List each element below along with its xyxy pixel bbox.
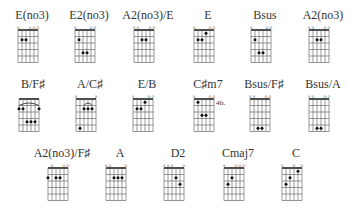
barre-arc	[19, 103, 39, 106]
open-string-marker: o	[239, 163, 242, 168]
muted-string-marker: x	[29, 25, 32, 30]
open-string-marker: o	[269, 94, 272, 99]
chord-name: Bsus/A	[293, 77, 353, 91]
finger-dot	[113, 176, 116, 179]
open-string-marker: o	[133, 25, 136, 30]
fretboard-grid: xxoo	[248, 93, 288, 136]
muted-string-marker: x	[281, 163, 284, 168]
fretboard-grid: xooo	[307, 24, 347, 67]
chord-name: D2	[148, 146, 208, 160]
finger-dot	[121, 176, 124, 179]
finger-dot	[22, 107, 25, 110]
open-string-marker: o	[90, 25, 93, 30]
open-string-marker: o	[213, 25, 216, 30]
chord-name: Bsus/F♯	[234, 77, 294, 91]
open-string-marker: o	[324, 94, 327, 99]
finger-dot	[47, 176, 50, 179]
finger-dot	[79, 127, 82, 130]
fretboard-grid: ooo	[192, 24, 232, 67]
finger-dot	[257, 127, 260, 130]
open-string-marker: o	[17, 25, 20, 30]
finger-dot	[320, 38, 323, 41]
open-string-marker: o	[312, 94, 315, 99]
finger-dot	[145, 38, 148, 41]
open-string-marker: o	[270, 25, 273, 30]
open-string-marker: o	[37, 25, 40, 30]
chord-name: Bsus	[235, 8, 295, 22]
open-string-marker: o	[33, 25, 36, 30]
open-string-marker: o	[328, 94, 331, 99]
open-string-marker: o	[153, 25, 156, 30]
finger-dot	[18, 107, 21, 110]
muted-string-marker: x	[253, 94, 256, 99]
open-string-marker: o	[266, 25, 269, 30]
fretboard-grid: xooo	[222, 162, 262, 205]
chord-name: A	[90, 146, 150, 160]
finger-dot	[21, 38, 24, 41]
finger-dot	[258, 51, 261, 54]
fretboard-grid: xoo	[104, 162, 144, 205]
muted-string-marker: x	[249, 94, 252, 99]
fretboard-grid: xoo4fr.	[192, 93, 232, 136]
open-string-marker: o	[209, 25, 212, 30]
open-string-marker: o	[235, 163, 238, 168]
fret-position-label: 4fr.	[216, 99, 226, 107]
open-string-marker: o	[137, 25, 140, 30]
open-string-marker: o	[171, 163, 174, 168]
chord-name: A2(no3)/F♯	[32, 146, 92, 160]
chord-name: E(no3)	[2, 8, 62, 22]
finger-dot	[227, 183, 230, 186]
finger-dot	[144, 101, 147, 104]
fretboard-grid: xoo	[280, 162, 320, 205]
chord-name: A/C♯	[60, 77, 120, 91]
chord-name: A2(no3)	[293, 8, 353, 22]
open-string-marker: o	[243, 163, 246, 168]
finger-dot	[205, 114, 208, 117]
finger-dot	[30, 120, 33, 123]
finger-dot	[91, 107, 94, 110]
chord-name: E/B	[117, 77, 177, 91]
open-string-marker: o	[63, 163, 66, 168]
finger-dot	[38, 107, 41, 110]
muted-string-marker: x	[250, 25, 253, 30]
fretboard-grid: oxoo	[16, 24, 56, 67]
open-string-marker: o	[265, 94, 268, 99]
muted-string-marker: x	[308, 94, 311, 99]
finger-dot	[261, 127, 264, 130]
finger-dot	[140, 107, 143, 110]
finger-dot	[83, 107, 86, 110]
open-string-marker: o	[109, 163, 112, 168]
fretboard-grid: xoo	[46, 162, 86, 205]
finger-dot	[179, 183, 182, 186]
fretboard-grid: ooo	[73, 24, 113, 67]
open-string-marker: o	[324, 25, 327, 30]
open-string-marker: o	[209, 94, 212, 99]
finger-dot	[86, 51, 89, 54]
finger-dot	[78, 38, 81, 41]
fretboard-grid: xx	[74, 93, 114, 136]
chord-name: E	[178, 8, 238, 22]
finger-dot	[316, 38, 319, 41]
fretboard-grid: xoo	[131, 93, 171, 136]
finger-dot	[117, 176, 120, 179]
finger-dot	[231, 176, 234, 179]
open-string-marker: o	[301, 163, 304, 168]
muted-string-marker: x	[51, 163, 54, 168]
open-string-marker: o	[125, 163, 128, 168]
open-string-marker: o	[152, 94, 155, 99]
open-string-marker: o	[193, 25, 196, 30]
finger-dot	[141, 38, 144, 41]
open-string-marker: o	[293, 163, 296, 168]
muted-string-marker: x	[167, 163, 170, 168]
chord-name: C	[266, 146, 326, 160]
finger-dot	[201, 38, 204, 41]
finger-dot	[201, 114, 204, 117]
open-string-marker: o	[74, 25, 77, 30]
finger-dot	[87, 107, 90, 110]
open-string-marker: o	[312, 25, 315, 30]
open-string-marker: o	[67, 163, 70, 168]
finger-dot	[25, 38, 28, 41]
finger-dot	[262, 51, 265, 54]
finger-dot	[175, 176, 178, 179]
open-string-marker: o	[213, 94, 216, 99]
